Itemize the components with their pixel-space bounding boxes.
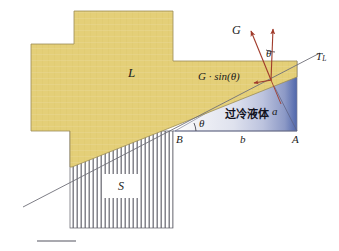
label-point-A: A	[292, 134, 299, 145]
label-theta-wedge: θ	[199, 118, 204, 129]
label-L: L	[128, 66, 135, 79]
diagram-canvas	[0, 0, 339, 251]
label-TL-subscript: L	[322, 54, 326, 63]
label-alpha: a	[272, 106, 278, 117]
label-G: G	[232, 24, 241, 36]
label-TL: TL	[316, 51, 326, 63]
label-G-sin-theta: G · sin(θ)	[198, 71, 240, 82]
label-S: S	[118, 180, 124, 192]
figure-root: L S G G · sin(θ) θ θ a B A b TL 过冷液体	[0, 0, 339, 251]
label-theta-top: θ	[266, 48, 271, 59]
label-point-B: B	[176, 134, 183, 145]
label-segment-b: b	[240, 134, 246, 145]
label-supercooled-liquid: 过冷液体	[225, 109, 269, 120]
